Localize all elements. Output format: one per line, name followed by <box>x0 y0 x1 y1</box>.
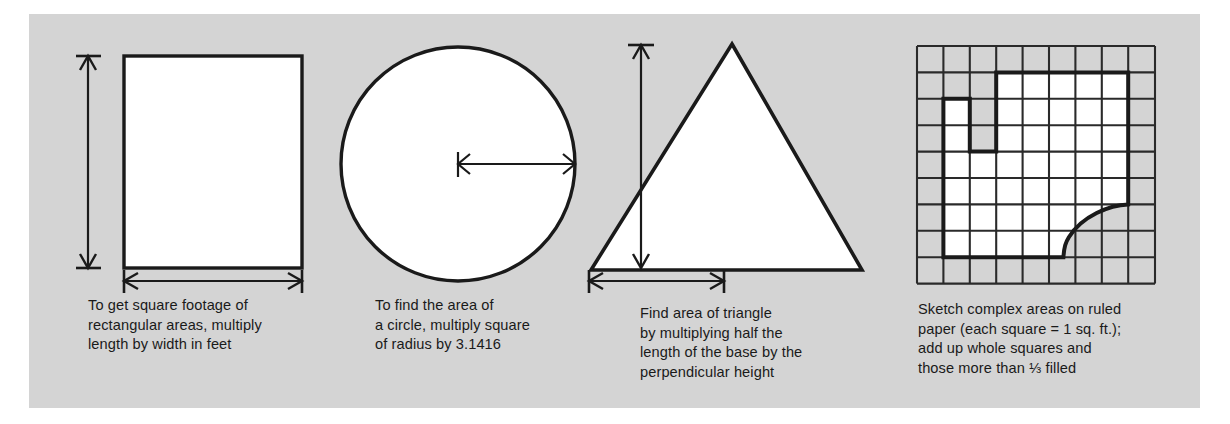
circle-diagram <box>341 47 575 281</box>
caption-circle: To find the area of a circle, multiply s… <box>375 296 625 355</box>
rectangle-height-arrow <box>76 56 101 268</box>
triangle-diagram <box>589 44 862 293</box>
rectangle-shape <box>124 56 302 268</box>
triangle-shape <box>591 44 862 270</box>
area-reference-figure: To get square footage of rectangular are… <box>0 0 1230 424</box>
grid-diagram <box>917 46 1155 284</box>
rectangle-width-arrow <box>124 270 302 293</box>
caption-grid: Sketch complex areas on ruled paper (eac… <box>918 300 1198 378</box>
triangle-half-base-arrow <box>589 270 724 293</box>
caption-rectangle: To get square footage of rectangular are… <box>88 296 338 355</box>
rectangle-diagram <box>76 56 302 293</box>
caption-triangle: Find area of triangle by multiplying hal… <box>640 304 890 382</box>
